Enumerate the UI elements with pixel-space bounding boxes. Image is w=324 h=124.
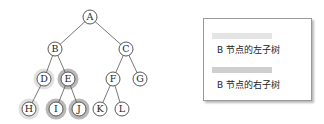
svg-text:B: B (52, 43, 59, 54)
node-F: F (106, 72, 120, 86)
node-A: A (83, 10, 97, 24)
svg-text:L: L (119, 103, 126, 114)
svg-text:D: D (40, 73, 48, 84)
svg-text:K: K (96, 103, 104, 114)
node-J: J (72, 102, 86, 116)
node-D: D (37, 72, 51, 86)
right-subtree-label: B 节点的右子树 (217, 78, 280, 91)
binary-tree-diagram: ABCDEFGHIJKL (0, 0, 200, 124)
svg-text:H: H (25, 103, 33, 114)
svg-text:A: A (86, 11, 94, 22)
node-H: H (22, 102, 36, 116)
node-I: I (49, 102, 63, 116)
node-E: E (61, 72, 75, 86)
node-L: L (115, 102, 129, 116)
svg-text:C: C (122, 43, 129, 54)
svg-text:F: F (110, 73, 117, 84)
node-G: G (133, 72, 147, 86)
svg-text:J: J (76, 103, 81, 114)
right-subtree-swatch (212, 67, 272, 73)
node-K: K (93, 102, 107, 116)
left-subtree-label: B 节点的左子树 (217, 43, 280, 56)
left-subtree-swatch (212, 33, 272, 39)
svg-text:E: E (65, 73, 72, 84)
legend-box: B 节点的左子树 B 节点的右子树 (203, 18, 312, 101)
node-B: B (48, 42, 62, 56)
node-C: C (119, 42, 133, 56)
svg-text:I: I (54, 103, 58, 114)
svg-text:G: G (136, 73, 144, 84)
